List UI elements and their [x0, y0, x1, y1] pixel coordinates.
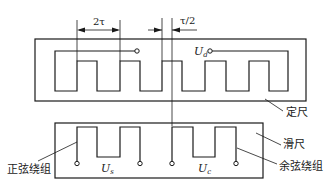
cosine-winding-label: 余弦绕组: [279, 159, 323, 173]
offset-label: τ/2: [180, 15, 195, 26]
slider-label: 滑尺: [283, 138, 305, 151]
inductosyn-diagram: Ud 2τ τ/2 定尺 Us Uc 滑尺 余弦绕组 正弦绕组: [0, 0, 334, 194]
stator-terminal-right: [208, 49, 212, 53]
stator-frame: [35, 39, 306, 101]
sine-winding: [77, 127, 140, 161]
sine-terminal-right: [138, 161, 142, 165]
stator-terminal-left: [135, 49, 139, 53]
slider-frame: [55, 123, 263, 178]
slider-leader-line: [256, 133, 281, 145]
stator-winding: [55, 51, 288, 91]
sine-winding-label: 正弦绕组: [7, 162, 51, 176]
pitch-label: 2τ: [93, 16, 105, 27]
arrow-left-icon: [172, 28, 180, 33]
stator-label: 定尺: [286, 105, 308, 119]
cosine-voltage-symbol: Uc: [198, 162, 211, 176]
arrow-right-icon: [154, 28, 162, 33]
cosine-terminal-right: [234, 161, 238, 165]
cosine-leader-line: [237, 148, 277, 164]
arrow-left-icon: [77, 28, 85, 33]
sine-leader-line: [38, 142, 77, 161]
sine-voltage-symbol: Us: [101, 162, 114, 176]
cosine-terminal-left: [170, 161, 174, 165]
cosine-winding: [172, 127, 236, 161]
sine-terminal-left: [75, 161, 79, 165]
stator-voltage-symbol: Ud: [194, 45, 208, 59]
arrow-right-icon: [112, 28, 120, 33]
